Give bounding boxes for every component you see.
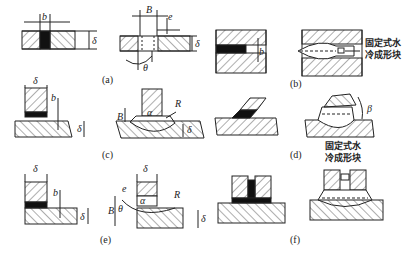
- panel-c-left: [15, 85, 84, 137]
- label-delta: δ: [77, 123, 82, 134]
- label-e: e: [168, 11, 173, 22]
- label-theta: θ: [118, 203, 123, 214]
- welding-joint-diagram: b δ B e δ θ (a) b 固定式水 冷成形块 (b) δ b δ B …: [0, 0, 414, 259]
- annotation-line2: 冷成形块: [365, 49, 402, 60]
- label-b: b: [259, 46, 264, 57]
- panel-d-left: [215, 98, 278, 135]
- label-delta: δ: [201, 213, 206, 224]
- label-e: e: [122, 183, 127, 194]
- panel-label-d: (d): [290, 149, 302, 161]
- panel-d-right: [305, 94, 374, 137]
- label-b: b: [53, 187, 58, 198]
- label-B: B: [117, 111, 123, 122]
- label-delta: δ: [195, 38, 200, 49]
- panel-f-right: [310, 170, 383, 220]
- panel-label-c: (c): [102, 149, 113, 161]
- panel-b-right: [298, 30, 362, 76]
- panel-e-right: [115, 174, 198, 228]
- label-R: R: [173, 189, 180, 200]
- annotation-line2: 冷成形块: [325, 152, 362, 163]
- label-b: b: [51, 92, 56, 103]
- label-delta: δ: [92, 35, 97, 46]
- label-delta: δ: [33, 75, 38, 86]
- label-delta: δ: [143, 163, 148, 174]
- label-theta: θ: [143, 62, 148, 73]
- panel-f-left: [218, 176, 285, 223]
- label-B: B: [146, 4, 152, 15]
- label-alpha: α: [147, 107, 153, 118]
- label-delta: δ: [33, 163, 38, 174]
- annotation-line1: 固定式水: [365, 37, 402, 48]
- label-alpha: α: [140, 195, 146, 206]
- label-beta: β: [366, 103, 372, 114]
- panel-label-a: (a): [102, 74, 113, 86]
- annotation-line1: 固定式水: [325, 140, 362, 151]
- panel-label-e: (e): [100, 234, 111, 246]
- panel-a-chamfer-joint: [120, 10, 197, 70]
- label-b: b: [42, 11, 47, 22]
- label-delta: δ: [187, 124, 192, 135]
- panel-label-b: (b): [290, 78, 302, 90]
- label-R: R: [174, 98, 181, 109]
- label-delta: δ: [80, 211, 85, 222]
- panel-label-f: (f): [290, 234, 300, 246]
- panel-e-left: [25, 174, 88, 224]
- panel-a-butt-joint: [22, 14, 97, 49]
- label-B: B: [108, 205, 114, 216]
